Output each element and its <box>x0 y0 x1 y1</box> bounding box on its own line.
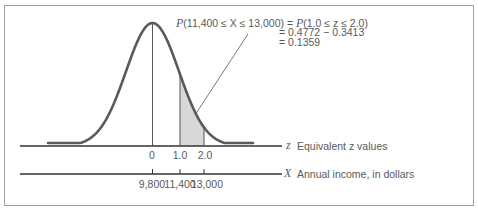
z-tick-label-1: 1.0 <box>173 150 188 161</box>
normal-distribution-figure: P(11,400 ≤ X ≤ 13,000) = P(1.0 ≤ z ≤ 2.0… <box>0 0 478 213</box>
leader-line <box>195 34 248 115</box>
z-tick-label-2: 2.0 <box>198 150 213 161</box>
x-axis-symbol: X <box>284 167 291 179</box>
z-tick-label-0: 0 <box>149 150 155 161</box>
x-tick-label-9800: 9,800 <box>139 179 165 190</box>
figure-canvas <box>0 0 478 213</box>
normal-curve <box>48 23 253 143</box>
x-axis-label: Annual income, in dollars <box>297 169 414 180</box>
x-tick-label-13000: 13,000 <box>191 179 223 190</box>
z-axis-label: Equivalent z values <box>297 141 387 152</box>
z-axis-symbol: z <box>286 139 291 151</box>
formula-line-3: = 0.1359 <box>279 37 320 48</box>
